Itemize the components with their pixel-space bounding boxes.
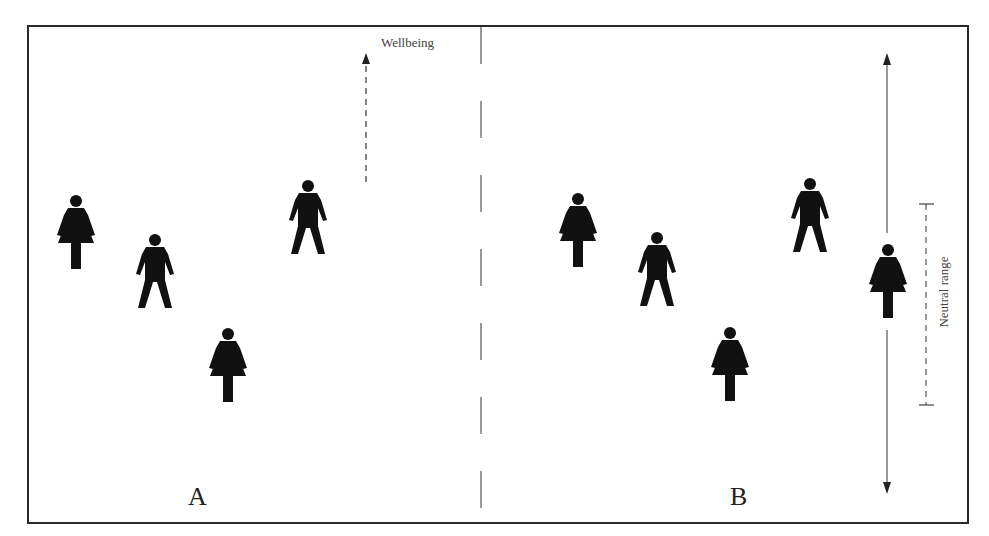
wellbeing-label: Wellbeing [381,35,434,51]
panel-b-label: B [730,482,747,512]
down-arrowhead-icon [883,482,891,494]
female-figure-icon [711,327,749,401]
diagram-canvas: Wellbeing Neutral range A B [0,0,989,536]
panel-b-figures [559,178,907,401]
male-figure-icon [791,178,829,252]
neutral-range-label: Neutral range [936,252,952,332]
up-arrowhead-icon [883,53,891,65]
male-figure-icon [638,232,676,306]
panel-a-label: A [188,482,207,512]
male-figure-icon [136,234,174,308]
panel-a-figures [57,180,327,402]
male-figure-icon [289,180,327,254]
female-figure-icon [209,328,247,402]
diagram-graphics [0,0,989,536]
female-figure-icon [57,195,95,269]
female-figure-icon [869,244,907,318]
wellbeing-arrowhead-icon [362,53,370,64]
female-figure-icon [559,193,597,267]
